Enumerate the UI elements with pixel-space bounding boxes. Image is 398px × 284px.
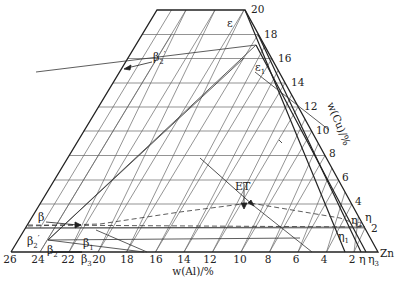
label-epsilon: ε xyxy=(227,17,233,30)
label-ET: ET xyxy=(235,180,251,193)
label-eta: η xyxy=(365,211,372,224)
grid xyxy=(26,10,366,252)
corner-label-zn: Zn xyxy=(380,247,394,259)
tick-al-12: 12 xyxy=(203,253,216,265)
tick-al-6: 6 xyxy=(293,253,300,265)
tick-al-8: 8 xyxy=(265,253,272,265)
tick-al-22: 22 xyxy=(61,253,74,265)
tick-cu-4: 4 xyxy=(355,195,362,207)
label-epsilon1: ε1 xyxy=(255,61,265,76)
tick-cu-18: 18 xyxy=(264,28,277,40)
tick-cu-14: 14 xyxy=(291,76,305,88)
label-eta-bottom: η xyxy=(359,253,366,266)
tick-cu-20: 20 xyxy=(251,3,264,15)
tick-al-18: 18 xyxy=(120,253,133,265)
label-beta2: β2 xyxy=(47,244,58,259)
label-eta3: η3 xyxy=(368,253,379,268)
label-eta2: η2 xyxy=(351,214,362,229)
tick-al-16: 16 xyxy=(149,253,163,265)
label-beta2-prime-top: β2′ xyxy=(153,49,166,66)
tick-al-20: 20 xyxy=(92,253,105,265)
label-eta1: η1 xyxy=(338,230,349,245)
tick-cu-2: 2 xyxy=(371,222,378,234)
tick-al-10: 10 xyxy=(233,253,246,265)
ternary-phase-diagram: 26 24 22 20 18 16 14 12 10 8 6 4 2 w(Al)… xyxy=(0,0,398,284)
bottom-axis-title: w(Al)/% xyxy=(172,265,214,277)
arrows xyxy=(46,62,282,252)
tick-cu-8: 8 xyxy=(329,147,336,159)
label-beta3: β3 xyxy=(81,253,92,268)
tick-al-14: 14 xyxy=(177,253,191,265)
tick-cu-12: 12 xyxy=(304,100,317,112)
tick-al-26: 26 xyxy=(3,253,17,265)
tick-al-2: 2 xyxy=(349,253,356,265)
tick-cu-10: 10 xyxy=(316,124,329,136)
tick-al-24: 24 xyxy=(31,253,45,265)
label-beta: β xyxy=(38,211,44,224)
tick-cu-16: 16 xyxy=(278,52,292,64)
tick-cu-6: 6 xyxy=(342,171,349,183)
phase-boundaries-thin xyxy=(25,45,365,252)
tick-al-4: 4 xyxy=(321,253,328,265)
label-beta2-prime-left: β2′ xyxy=(27,233,40,250)
